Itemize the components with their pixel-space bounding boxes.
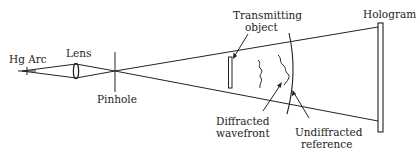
ray-pinhole-to-hologram-bottom <box>115 71 378 121</box>
ray-pinhole-to-hologram-top <box>115 27 378 71</box>
lens-icon <box>73 64 78 79</box>
ray-lens-to-pinhole-bottom <box>76 71 115 78</box>
label-undiffracted-line2: reference <box>301 138 352 150</box>
leader-diffracted-wavefront <box>263 84 281 111</box>
ray-source-to-lens-top <box>22 64 76 71</box>
holography-setup-diagram: Hg Arc Lens Pinhole Transmitting object … <box>0 0 417 157</box>
arrowhead-diffracted-wavefront-icon <box>277 82 282 88</box>
label-undiffracted-line1: Undiffracted <box>295 126 363 138</box>
diffracted-wavefront-2-icon <box>278 55 289 85</box>
ray-lens-to-pinhole-top <box>76 64 115 71</box>
label-lens: Lens <box>66 47 91 59</box>
transmitting-object-icon <box>229 57 233 88</box>
label-transmitting-object-line1: Transmitting <box>233 9 302 21</box>
label-transmitting-object-line2: object <box>245 21 278 33</box>
diffracted-wavefront-1-icon <box>258 60 262 88</box>
label-diffracted-line2: wavefront <box>216 127 270 139</box>
leader-transmitting-object <box>234 34 248 57</box>
ray-source-to-lens-bottom <box>22 71 76 78</box>
label-diffracted-line1: Diffracted <box>216 115 270 127</box>
label-hologram: Hologram <box>363 8 416 20</box>
label-hg-arc: Hg Arc <box>9 53 47 65</box>
hologram-plate-icon <box>378 23 383 132</box>
label-pinhole: Pinhole <box>97 93 137 105</box>
